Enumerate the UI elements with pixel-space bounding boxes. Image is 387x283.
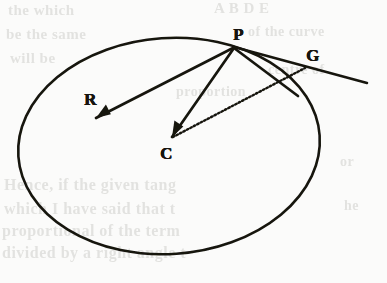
- segment-tangent-through-p-and-g: [234, 47, 367, 83]
- geometry-figure: [0, 0, 387, 283]
- segment-p-to-c: [172, 48, 234, 137]
- segment-p-to-r: [96, 48, 233, 118]
- point-label-r: R: [84, 91, 96, 108]
- figure-page: the whichA B D Ebe the sameof the curvew…: [0, 0, 387, 283]
- point-label-g: G: [306, 47, 319, 64]
- point-label-p: P: [233, 26, 243, 43]
- arrowhead-at-r: [96, 105, 111, 119]
- point-label-c: C: [160, 145, 172, 162]
- segment-c-to-g-dotted: [173, 68, 305, 137]
